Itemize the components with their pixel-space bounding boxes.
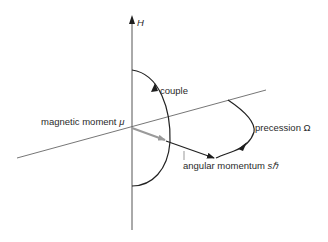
h-axis-arrowhead-icon xyxy=(129,15,135,24)
angular-momentum-text: angular momentum xyxy=(183,160,265,171)
magnetic-moment-label: magnetic moment μ xyxy=(41,117,124,127)
omega-symbol: Ω xyxy=(304,122,311,133)
precession-arrowhead-icon xyxy=(238,142,247,151)
couple-label: couple xyxy=(160,86,188,96)
angular-momentum-label: angular momentum sℏ xyxy=(183,161,278,171)
precession-curve xyxy=(216,100,254,158)
mu-symbol: μ xyxy=(119,116,124,127)
angular-momentum-arrow xyxy=(166,141,214,158)
magnetic-moment-text: magnetic moment xyxy=(41,116,117,127)
h-axis xyxy=(129,15,135,230)
magnetic-moment-arrow xyxy=(132,128,165,140)
s-hbar-symbol: sℏ xyxy=(268,160,279,171)
precession-text: precession xyxy=(255,122,301,133)
precession-label: precession Ω xyxy=(255,123,311,133)
h-axis-label: H xyxy=(137,18,144,28)
